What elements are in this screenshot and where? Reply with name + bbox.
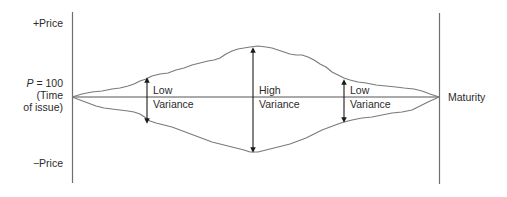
par-value-line1: P = 100 [23,77,63,89]
early-variance-line1: Low [153,84,194,96]
middle-variance-label: High Variance [259,84,300,110]
early-variance-label: Low Variance [153,84,194,110]
late-variance-line2: Variance [350,98,391,110]
late-variance-label: Low Variance [350,84,391,110]
minus-price-label: −Price [33,157,63,169]
late-variance-line1: Low [350,84,391,96]
par-value-text: = 100 [36,77,63,89]
middle-variance-line2: Variance [259,98,300,110]
maturity-label: Maturity [448,91,485,103]
par-value-label: P = 100 (Time of issue) [23,77,63,113]
middle-variance-line1: High [259,84,300,96]
plus-price-label: +Price [33,17,63,29]
bond-price-variance-diagram: +Price P = 100 (Time of issue) −Price Ma… [0,0,507,197]
par-note-line1: (Time [23,89,63,101]
early-variance-line2: Variance [153,98,194,110]
par-note-line2: of issue) [23,101,63,113]
diagram-graphics [0,0,507,197]
par-symbol: P [26,77,33,89]
